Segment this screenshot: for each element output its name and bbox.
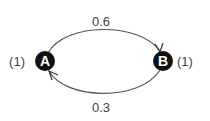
node-b: B (153, 51, 173, 71)
node-a: A (35, 51, 55, 71)
node-b-weight: (1) (177, 54, 193, 69)
node-a-weight: (1) (9, 54, 25, 69)
svg-text:A: A (40, 53, 50, 69)
arrowhead-icon (155, 43, 163, 52)
edge-b-to-a (49, 70, 160, 93)
edge-label-top: 0.6 (92, 14, 110, 29)
svg-text:B: B (158, 53, 168, 69)
edge-label-bottom: 0.3 (92, 100, 110, 115)
state-diagram: A (1) B (1) 0.6 0.3 (0, 0, 210, 121)
edge-a-to-b (48, 29, 160, 53)
